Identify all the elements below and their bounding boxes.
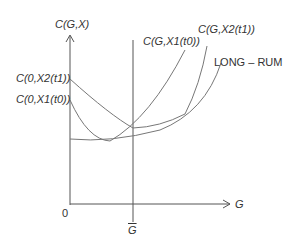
curve-x1-t0	[70, 50, 185, 141]
y-axis-label: C(G,X)	[55, 18, 89, 30]
label-cg-x2-t1: C(G,X2(t1))	[198, 23, 255, 35]
label-c0-x1-t0: C(0,X1(t0))	[16, 93, 70, 105]
curve-long-run	[70, 63, 221, 140]
label-cg-x1-t0: C(G,X1(t0))	[143, 35, 200, 47]
origin-label: 0	[62, 207, 68, 219]
label-c0-x2-t1: C(0,X2(t1))	[16, 72, 70, 84]
x-axis-label: G	[235, 198, 244, 210]
curve-x2-t1	[70, 46, 207, 128]
gbar-label: G	[128, 224, 137, 236]
label-long-run: LONG – RUM	[214, 56, 282, 68]
